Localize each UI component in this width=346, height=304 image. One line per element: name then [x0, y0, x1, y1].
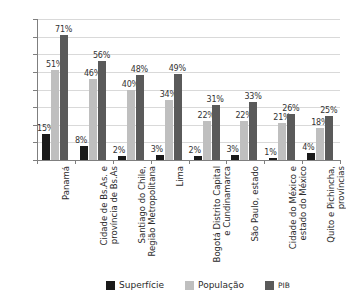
bar-value-label: 71%: [55, 26, 72, 34]
y-tick-mark: [33, 107, 37, 108]
bar: [89, 79, 97, 160]
y-tick-mark: [33, 54, 37, 55]
bar: [165, 100, 173, 160]
bar: [127, 90, 135, 161]
bar: [231, 155, 239, 160]
bar: [325, 116, 333, 160]
x-tick-mark: [75, 160, 76, 164]
legend-swatch-icon: [185, 281, 194, 290]
x-tick-mark: [226, 160, 227, 164]
bar: [118, 156, 126, 160]
bar-value-label: 49%: [169, 65, 186, 73]
bar-group: 2%40%48%: [116, 19, 154, 160]
category-label: Lima: [176, 166, 186, 270]
bar-value-label: 31%: [207, 96, 224, 104]
bar-group: 3%34%49%: [154, 19, 192, 160]
bar-value-label: 25%: [320, 107, 337, 115]
bar: [287, 114, 295, 160]
bar: [203, 121, 211, 160]
bar: [98, 61, 106, 160]
bar-group: 1%21%26%: [267, 19, 305, 160]
bar: [240, 121, 248, 160]
bar: [174, 74, 182, 160]
category-label: Santiago do Chile, Região Metropolitana: [138, 166, 157, 270]
y-tick-mark: [33, 19, 37, 20]
bar: [194, 156, 202, 160]
bar-value-label: 56%: [93, 52, 110, 60]
bar: [156, 155, 164, 160]
legend-label: Superfície: [119, 281, 164, 290]
bar-group: 3%22%33%: [229, 19, 267, 160]
legend-swatch-icon: [265, 281, 274, 290]
bar: [136, 75, 144, 160]
bar-value-label: 2%: [113, 147, 125, 155]
bar-value-label: 8%: [75, 137, 87, 145]
category-label: Cidade do México e estado do México: [289, 166, 308, 270]
bar-value-label: 1%: [264, 149, 276, 157]
y-tick-mark: [33, 37, 37, 38]
bar: [316, 128, 324, 160]
bar-value-label: 3%: [226, 146, 238, 154]
bar-value-label: 2%: [189, 147, 201, 155]
bar: [278, 123, 286, 160]
bar: [249, 102, 257, 160]
legend-swatch-icon: [106, 281, 115, 290]
bar-value-label: 4%: [302, 144, 314, 152]
legend-item-popula-o[interactable]: População: [185, 281, 244, 290]
x-tick-mark: [113, 160, 114, 164]
x-tick-mark: [264, 160, 265, 164]
x-tick-mark: [302, 160, 303, 164]
bar-group: 4%18%25%: [305, 19, 343, 160]
legend-label: População: [198, 281, 244, 290]
bar: [42, 134, 50, 160]
category-label: Panamá: [62, 166, 72, 270]
bar: [269, 158, 277, 160]
y-tick-mark: [33, 142, 37, 143]
legend-label: PIB: [278, 282, 290, 290]
bar: [307, 153, 315, 160]
legend-item-pib[interactable]: PIB: [265, 281, 290, 290]
category-label: Cidade de Bs.As. e província de Bs.As: [100, 166, 119, 270]
bar-value-label: 3%: [151, 146, 163, 154]
bar: [80, 146, 88, 160]
y-axis-line: [37, 19, 38, 161]
category-label: São Paulo, estado: [251, 166, 261, 270]
y-tick-mark: [33, 90, 37, 91]
y-tick-mark: [33, 72, 37, 73]
bar-value-label: 48%: [131, 66, 148, 74]
bar-value-label: 26%: [282, 105, 299, 113]
bar-group: 2%22%31%: [192, 19, 230, 160]
bar-group: 15%51%71%: [40, 19, 78, 160]
x-tick-mark: [37, 160, 38, 164]
x-tick-mark: [151, 160, 152, 164]
bar: [212, 105, 220, 160]
x-tick-mark: [340, 160, 341, 164]
chart-legend: SuperfíciePopulaçãoPIB: [106, 281, 290, 290]
x-tick-mark: [189, 160, 190, 164]
bar-group: 8%46%56%: [78, 19, 116, 160]
bar: [60, 35, 68, 160]
category-label: Quito e Pichincha, províncias: [327, 166, 346, 270]
category-label: Bogotá Distrito Capital e Cundinamarca: [213, 166, 232, 270]
bar: [51, 70, 59, 160]
bar-value-label: 33%: [244, 93, 261, 101]
legend-item-superf-cie[interactable]: Superfície: [106, 281, 164, 290]
